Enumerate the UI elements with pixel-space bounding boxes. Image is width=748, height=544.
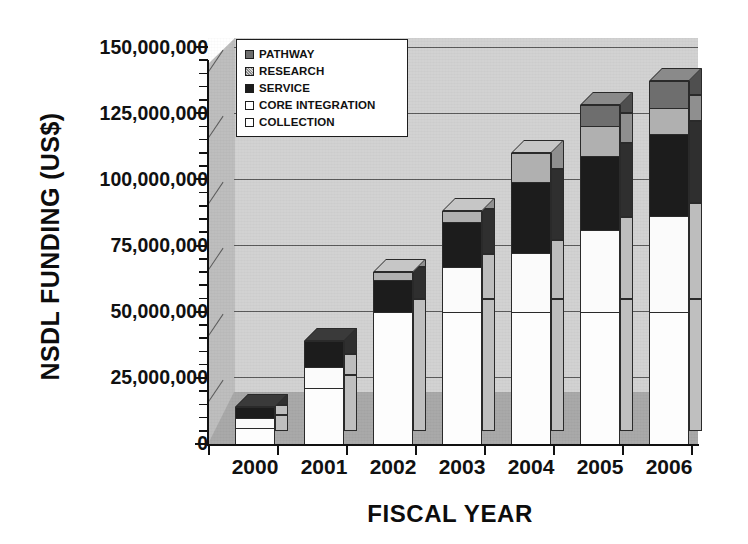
bar-segment-core [580,230,620,312]
legend-item-pathway: PATHWAY [245,46,400,63]
y-tick-mark-minor [199,337,208,339]
legend-label: PATHWAY [259,49,314,60]
y-tick-mark-minor [199,152,208,154]
bar-segment-pathway [649,81,689,107]
y-tick-mark-major [195,112,208,114]
x-tick-label: 2002 [356,455,430,479]
core-integration-swatch-icon [245,101,254,110]
bar-segment-collection [580,312,620,444]
x-tick-label: 2003 [425,455,499,479]
legend-label: COLLECTION [259,117,335,128]
bar-segment-side-collection [482,299,495,431]
bar-segment-side-core [482,254,495,299]
legend-item-core-integration: CORE INTEGRATION [245,97,400,114]
x-tick-mark [277,446,279,455]
y-tick-label: 0 [38,432,208,455]
bar-segment-side-collection [275,415,288,431]
y-tick-mark-minor [199,165,208,167]
y-tick-mark-minor [199,298,208,300]
pathway-swatch-icon [245,50,254,59]
bar-column-2006 [649,81,689,444]
y-tick-mark-minor [199,59,208,61]
bar-segment-core [511,253,551,311]
y-tick-label: 125,000,000 [38,102,208,125]
x-tick-mark [484,446,486,455]
bar-segment-research [442,211,482,222]
bar-segment-core [235,418,275,429]
y-tick-mark-major [195,311,208,313]
y-tick-mark-major [195,443,208,445]
bar-column-2004 [511,153,551,444]
bar-column-2001 [304,341,344,444]
bar-segment-side-core [689,203,702,298]
bar-segment-side-service [413,267,426,299]
y-tick-mark-major [195,377,208,379]
y-tick-mark-minor [199,324,208,326]
bar-segment-collection [373,312,413,444]
bar-segment-core [649,216,689,311]
bar-column-2005 [580,105,620,444]
y-tick-mark-minor [199,126,208,128]
x-tick-mark [208,446,210,455]
y-tick-mark-minor [199,86,208,88]
bar-segment-research [511,153,551,182]
bar-segment-side-collection [551,299,564,431]
x-axis-line [207,444,699,446]
bar-segment-service [442,222,482,267]
y-tick-mark-minor [199,99,208,101]
y-tick-label: 100,000,000 [38,168,208,191]
y-tick-mark-minor [199,417,208,419]
bar-segment-research [649,108,689,134]
bar-segment-side-core [551,240,564,298]
y-tick-mark-minor [199,231,208,233]
y-tick-label: 50,000,000 [38,300,208,323]
chart-figure: NSDL FUNDING (US$) 150,000,000 125,000,0… [0,0,748,544]
x-tick-mark [553,446,555,455]
bar-segment-core [304,367,344,388]
bar-segment-side-collection [344,375,357,431]
bar-segment-research [580,126,620,155]
y-tick-mark-minor [199,258,208,260]
legend-item-service: SERVICE [245,80,400,97]
bar-segment-side-core [344,354,357,375]
y-tick-mark-minor [199,364,208,366]
x-tick-label: 2001 [287,455,361,479]
bar-column-2000 [235,407,275,444]
x-tick-mark [346,446,348,455]
bar-segment-side-service [482,209,495,254]
bar-column-2003 [442,211,482,444]
bar-segment-side-collection [413,299,426,431]
x-tick-mark [691,446,693,455]
legend-label: CORE INTEGRATION [259,100,375,111]
y-tick-mark-minor [199,284,208,286]
y-tick-mark-major [195,46,208,48]
y-tick-label: 25,000,000 [38,366,208,389]
bar-segment-collection [511,312,551,444]
x-tick-label: 2000 [218,455,292,479]
y-tick-mark-minor [199,192,208,194]
bar-segment-service [304,341,344,367]
y-axis-line [207,60,209,446]
bar-segment-collection [442,312,482,444]
y-tick-mark-major [195,245,208,247]
bar-segment-research [373,272,413,280]
bar-segment-service [235,407,275,418]
y-tick-mark-minor [199,351,208,353]
bar-segment-service [511,182,551,253]
service-swatch-icon [245,84,254,93]
x-tick-label: 2006 [632,455,706,479]
y-tick-mark-minor [199,73,208,75]
legend-item-collection: COLLECTION [245,114,400,131]
legend-item-research: RESEARCH [245,63,400,80]
bar-segment-side-collection [620,299,633,431]
y-tick-mark-minor [199,390,208,392]
bar-segment-service [580,156,620,230]
x-tick-mark [415,446,417,455]
bar-segment-service [649,134,689,216]
bar-segment-collection [235,428,275,444]
bar-segment-side-research [620,113,633,142]
y-tick-mark-minor [199,430,208,432]
bar-segment-side-core [620,217,633,299]
y-tick-label: 150,000,000 [38,36,208,59]
bar-segment-collection [304,388,344,444]
